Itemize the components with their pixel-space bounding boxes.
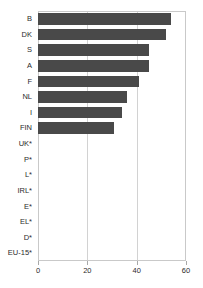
category-label: B — [0, 11, 35, 27]
bar — [38, 60, 149, 72]
bar — [38, 91, 127, 103]
category-label: UK* — [0, 136, 35, 152]
x-tick-label: 40 — [127, 266, 147, 275]
x-tick-label: 20 — [77, 266, 97, 275]
bar-row — [38, 245, 186, 261]
category-label: EU-15* — [0, 245, 35, 261]
bar-row — [38, 42, 186, 58]
category-label: EL* — [0, 214, 35, 230]
category-label: FIN — [0, 120, 35, 136]
x-tick-mark — [137, 261, 138, 265]
bar — [38, 44, 149, 56]
bar-row — [38, 230, 186, 246]
bar — [38, 76, 139, 88]
bar — [38, 13, 171, 25]
category-label: P* — [0, 152, 35, 168]
category-label: S — [0, 42, 35, 58]
bar-row — [38, 199, 186, 215]
category-label: IRL* — [0, 183, 35, 199]
bar-row — [38, 152, 186, 168]
bar-row — [38, 58, 186, 74]
category-label: F — [0, 74, 35, 90]
x-tick-label: 0 — [28, 266, 48, 275]
bar-row — [38, 183, 186, 199]
category-label: DK — [0, 27, 35, 43]
bar — [38, 122, 114, 134]
bar-row — [38, 136, 186, 152]
x-tick-mark — [38, 261, 39, 265]
category-label: A — [0, 58, 35, 74]
bar-row — [38, 27, 186, 43]
bar-row — [38, 105, 186, 121]
category-axis-labels: BDKSAFNLIFINUK*P*L*IRL*E*EL*D*EU-15* — [0, 11, 35, 261]
category-label: NL — [0, 89, 35, 105]
x-tick-label: 60 — [176, 266, 196, 275]
category-label: E* — [0, 199, 35, 215]
x-tick-mark — [186, 261, 187, 265]
category-label: I — [0, 105, 35, 121]
bar-row — [38, 167, 186, 183]
bar-row — [38, 89, 186, 105]
bar-row — [38, 120, 186, 136]
bars-layer — [38, 11, 186, 261]
bar-row — [38, 214, 186, 230]
bar — [38, 29, 166, 41]
bar-row — [38, 11, 186, 27]
x-tick-mark — [87, 261, 88, 265]
category-label: D* — [0, 230, 35, 246]
bar — [38, 107, 122, 119]
bar-row — [38, 74, 186, 90]
bar-chart: BDKSAFNLIFINUK*P*L*IRL*E*EL*D*EU-15* 020… — [0, 0, 203, 288]
category-label: L* — [0, 167, 35, 183]
